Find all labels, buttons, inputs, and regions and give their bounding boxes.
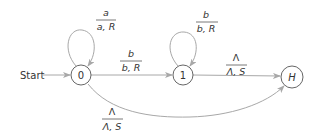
state-diagram: Start a a, R b b, R b b, R Λ Λ, S Λ Λ, S… bbox=[0, 0, 314, 140]
transition-label-1-H: Λ Λ, S bbox=[226, 52, 247, 77]
transition-label-1-1: b b, R bbox=[196, 9, 218, 34]
svg-text:a, R: a, R bbox=[97, 21, 115, 32]
transition-label-0-H: Λ Λ, S bbox=[102, 106, 123, 132]
loop-edge-1 bbox=[170, 32, 196, 66]
svg-text:Λ, S: Λ, S bbox=[226, 66, 246, 77]
transition-label-0-1: b b, R bbox=[120, 48, 142, 73]
svg-text:b: b bbox=[203, 9, 209, 20]
svg-text:b, R: b, R bbox=[197, 23, 216, 34]
svg-text:H: H bbox=[288, 72, 296, 83]
state-0: 0 bbox=[71, 65, 91, 85]
svg-text:a: a bbox=[103, 7, 109, 18]
edge-0-H bbox=[88, 84, 284, 117]
loop-edge-0 bbox=[68, 30, 94, 66]
svg-text:Λ, S: Λ, S bbox=[102, 121, 122, 132]
svg-text:Λ: Λ bbox=[233, 52, 240, 63]
svg-text:1: 1 bbox=[180, 70, 186, 81]
transition-label-0-0: a a, R bbox=[96, 7, 116, 32]
svg-text:b: b bbox=[128, 48, 134, 59]
svg-text:0: 0 bbox=[78, 70, 84, 81]
state-halt: H bbox=[281, 66, 303, 88]
svg-text:b, R: b, R bbox=[122, 62, 141, 73]
svg-text:Λ: Λ bbox=[109, 106, 116, 117]
start-label: Start bbox=[20, 70, 45, 81]
state-1: 1 bbox=[173, 65, 193, 85]
